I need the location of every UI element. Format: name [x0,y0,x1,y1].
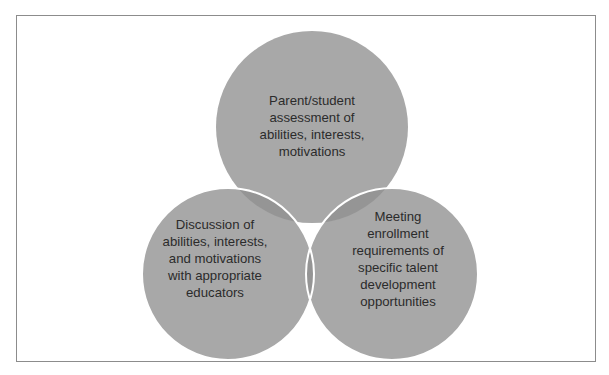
label-left: Discussion of abilities, interests, and … [145,216,285,301]
label-top: Parent/student assessment of abilities, … [232,92,392,160]
venn-diagram [0,0,609,375]
label-right: Meeting enrollment requirements of speci… [328,208,468,310]
